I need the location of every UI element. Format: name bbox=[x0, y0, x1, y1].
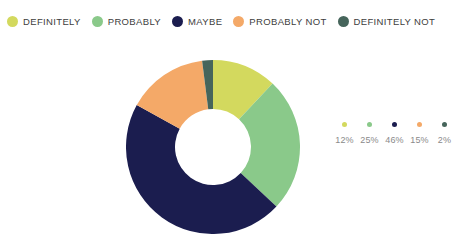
legend-value-swatch-icon bbox=[367, 122, 372, 127]
legend-value-swatch-icon bbox=[392, 122, 397, 127]
legend-value-item: 15% bbox=[407, 122, 432, 145]
legend-value-swatch-icon bbox=[442, 122, 447, 127]
legend-value-percent: 46% bbox=[385, 135, 404, 145]
legend-value-percent: 15% bbox=[410, 135, 429, 145]
chart-legend-right: 12%25%46%15%2% bbox=[332, 122, 457, 145]
legend-value-item: 2% bbox=[432, 122, 457, 145]
donut-slices bbox=[126, 60, 300, 234]
donut-chart bbox=[126, 60, 300, 234]
legend-value-swatch-icon bbox=[342, 122, 347, 127]
legend-value-percent: 25% bbox=[360, 135, 379, 145]
legend-value-item: 12% bbox=[332, 122, 357, 145]
legend-value-swatch-icon bbox=[417, 122, 422, 127]
legend-value-item: 25% bbox=[357, 122, 382, 145]
legend-value-item: 46% bbox=[382, 122, 407, 145]
legend-value-percent: 12% bbox=[335, 135, 354, 145]
legend-value-percent: 2% bbox=[438, 135, 451, 145]
